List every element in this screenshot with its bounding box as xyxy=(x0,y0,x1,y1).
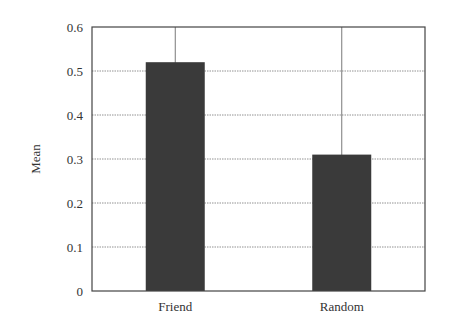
y-tick-label: 0.1 xyxy=(67,240,83,255)
y-tick-label: 0 xyxy=(77,284,84,299)
x-tick-label: Friend xyxy=(158,299,192,314)
y-axis-label: Mean xyxy=(28,144,43,174)
y-tick-label: 0.3 xyxy=(67,152,83,167)
x-tick-label: Random xyxy=(320,299,364,314)
bars xyxy=(146,62,372,291)
y-tick-label: 0.4 xyxy=(67,108,84,123)
y-tick-label: 0.5 xyxy=(67,64,83,79)
bar-friend xyxy=(146,62,205,291)
y-tick-label: 0.2 xyxy=(67,196,83,211)
grid-lines xyxy=(92,27,425,291)
x-axis-ticks: FriendRandom xyxy=(158,299,364,314)
y-tick-label: 0.6 xyxy=(67,20,84,35)
bar-chart: 00.10.20.30.40.50.6 FriendRandom Mean xyxy=(0,0,451,331)
bar-random xyxy=(312,155,371,291)
y-axis-ticks: 00.10.20.30.40.50.6 xyxy=(67,20,84,299)
